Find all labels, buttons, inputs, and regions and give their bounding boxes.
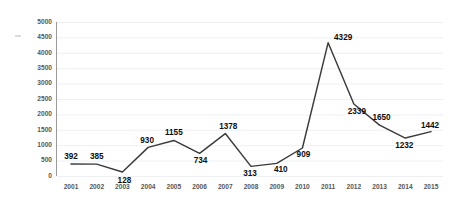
data-point-label: 410: [274, 165, 288, 174]
data-point-label: 1232: [395, 141, 414, 150]
data-point-label: 1442: [421, 121, 440, 130]
data-point-label: 392: [64, 152, 78, 161]
x-axis-tick-label: 2012: [347, 183, 362, 190]
data-point-label: 4329: [334, 33, 353, 42]
chart-canvas: 0500100015002000250030003500400045005000…: [0, 0, 460, 203]
x-axis-tick-label: 2014: [398, 183, 413, 190]
y-axis-tick-label: 4000: [37, 49, 52, 56]
y-axis-tick-label: 4500: [37, 33, 52, 40]
y-axis-tick-label: 2500: [37, 95, 52, 102]
x-axis-tick-label: 2015: [424, 183, 439, 190]
y-axis-tick-label: 1500: [37, 126, 52, 133]
x-axis-tick-label: 2001: [64, 183, 79, 190]
data-point-label: 2339: [348, 107, 367, 116]
y-axis-tick-label: 0: [48, 172, 52, 179]
x-axis-tick-label: 2009: [269, 183, 284, 190]
x-axis-tick-label: 2004: [141, 183, 156, 190]
x-axis-tick-label: 2011: [321, 183, 336, 190]
x-axis-tick-label: 2010: [295, 183, 310, 190]
chart-background: [0, 0, 460, 203]
data-point-label: 313: [243, 169, 257, 178]
data-point-label: 128: [118, 176, 132, 185]
y-axis-tick-label: 3500: [37, 64, 52, 71]
data-point-label: 734: [194, 156, 208, 165]
x-axis-tick-label: 2006: [192, 183, 207, 190]
data-point-label: 1378: [219, 122, 238, 131]
data-point-label: 385: [90, 152, 104, 161]
x-axis-tick-label: 2005: [167, 183, 182, 190]
y-axis-tick-label: 1000: [37, 141, 52, 148]
y-axis-tick-label: 3000: [37, 79, 52, 86]
data-point-label: 909: [297, 150, 311, 159]
x-axis-tick-label: 2013: [372, 183, 387, 190]
line-chart: 0500100015002000250030003500400045005000…: [0, 0, 460, 203]
data-point-label: 1650: [372, 113, 391, 122]
x-axis-tick-label: 2002: [89, 183, 104, 190]
y-axis-tick-label: 500: [41, 156, 52, 163]
x-axis-tick-label: 2007: [218, 183, 233, 190]
data-point-label: 1155: [165, 128, 183, 137]
x-axis-tick-label: 2008: [244, 183, 259, 190]
y-axis-tick-label: 5000: [37, 18, 52, 25]
data-point-label: 930: [140, 136, 154, 145]
y-axis-tick-label: 2000: [37, 110, 52, 117]
